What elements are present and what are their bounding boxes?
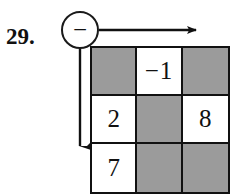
grid-cell-r1c3 <box>183 48 228 96</box>
number-grid: −1 2 8 7 <box>90 46 230 194</box>
grid-cell-r1c1 <box>92 48 137 96</box>
problem-number-label: 29. <box>6 25 35 48</box>
grid-cell-r3c3 <box>183 144 228 192</box>
grid-cell-value: −1 <box>145 58 174 85</box>
grid-cell-r2c1: 2 <box>92 96 137 144</box>
grid-cell-r2c2 <box>137 96 182 144</box>
grid-cell-r1c2: −1 <box>137 48 182 96</box>
grid-cell-r3c2 <box>137 144 182 192</box>
minus-icon: − <box>63 13 97 47</box>
grid-cell-r3c1: 7 <box>92 144 137 192</box>
worksheet-problem-figure: 29. − −1 2 8 <box>0 0 239 194</box>
grid-cell-value: 8 <box>199 106 212 133</box>
grid-cell-value: 7 <box>107 155 120 182</box>
grid-cell-r2c3: 8 <box>183 96 228 144</box>
minus-operator-circle: − <box>61 11 99 49</box>
grid-cell-value: 2 <box>107 106 120 133</box>
